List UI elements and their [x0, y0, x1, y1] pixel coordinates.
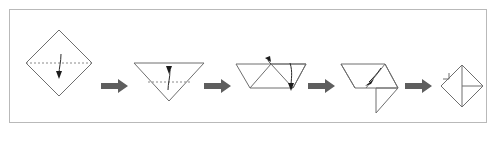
- step-3-inner-crease-v: [250, 64, 293, 88]
- step-3-trapezoid-with-zigzag: [236, 56, 306, 91]
- step-5-corner-notch: [443, 73, 449, 79]
- step-2-fold-arrow: [166, 66, 172, 90]
- step-5-final-diamond: [441, 65, 483, 107]
- step-1-square-diamond: [26, 30, 92, 96]
- step-3-right-crease: [293, 64, 306, 88]
- arrow-step-2-to-3: [204, 79, 231, 93]
- step-2-downward-triangle: [134, 63, 204, 101]
- step-4-inner-crease: [366, 64, 398, 88]
- arrow-step-1-to-2: [101, 79, 128, 93]
- origami-figure: Origami folding sequence Five-step paper…: [0, 0, 504, 141]
- step-3-upper-fold-mark: [265, 56, 271, 64]
- step-4-lower-flap: [376, 88, 398, 113]
- step-1-fold-arrow: [56, 54, 62, 79]
- origami-diagram: [0, 0, 504, 141]
- step-4-left-edge: [341, 64, 355, 88]
- arrow-step-4-to-5: [405, 79, 432, 93]
- step-4-parallelogram-with-flap: [341, 64, 398, 113]
- step-4-fold-arrow: [365, 68, 381, 86]
- arrow-step-3-to-4: [308, 79, 335, 93]
